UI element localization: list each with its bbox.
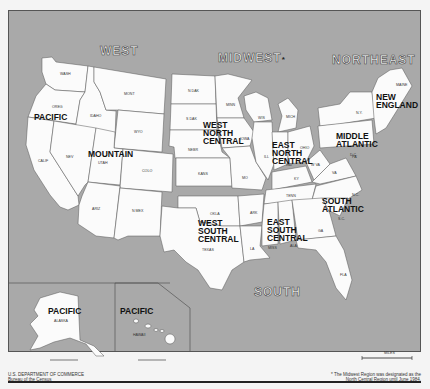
- svg-text:OHIO: OHIO: [300, 146, 309, 150]
- svg-text:OKLA: OKLA: [210, 212, 220, 216]
- svg-text:MICH: MICH: [286, 115, 296, 119]
- svg-text:WASH: WASH: [60, 72, 71, 76]
- region-label-midwest: MIDWEST*: [218, 51, 286, 65]
- svg-text:IND: IND: [286, 163, 293, 167]
- svg-text:CALIF: CALIF: [38, 159, 49, 163]
- svg-text:ILL: ILL: [264, 155, 269, 159]
- svg-text:MONT: MONT: [124, 92, 135, 96]
- svg-text:ALA: ALA: [290, 244, 297, 248]
- svg-text:IDAHO: IDAHO: [90, 114, 102, 118]
- svg-text:KY: KY: [294, 177, 299, 181]
- svg-text:FLA: FLA: [340, 273, 347, 277]
- hawaii-islands: [134, 319, 176, 344]
- region-label-west: WEST: [100, 44, 139, 58]
- svg-text:D.C.: D.C.: [350, 153, 357, 157]
- svg-text:NEV: NEV: [66, 155, 74, 159]
- hawaii-inset-border: [115, 283, 190, 352]
- svg-text:S.C.: S.C.: [338, 217, 345, 221]
- division-pacific: PACIFIC: [34, 112, 67, 122]
- svg-text:NEBR: NEBR: [188, 148, 198, 152]
- region-label-northeast: NORTHEAST: [332, 53, 416, 67]
- svg-text:TEXAS: TEXAS: [202, 248, 214, 252]
- svg-text:N.Y.: N.Y.: [356, 111, 363, 115]
- svg-text:ARK: ARK: [250, 211, 258, 215]
- svg-text:KANS: KANS: [198, 172, 208, 176]
- svg-text:VA: VA: [332, 171, 337, 175]
- svg-text:ALASKA: ALASKA: [54, 319, 69, 323]
- svg-text:HAWAII: HAWAII: [133, 333, 146, 337]
- svg-text:WIS: WIS: [258, 116, 265, 120]
- svg-text:WYO: WYO: [134, 130, 143, 134]
- svg-text:LA: LA: [250, 247, 255, 251]
- svg-text:MINN: MINN: [226, 103, 236, 107]
- svg-text:OREG: OREG: [52, 105, 63, 109]
- svg-text:TENN: TENN: [286, 194, 296, 198]
- division-mountain: MOUNTAIN: [88, 149, 133, 159]
- svg-text:UTAH: UTAH: [98, 161, 108, 165]
- svg-text:N DAK: N DAK: [188, 89, 200, 93]
- svg-text:MILES: MILES: [384, 351, 395, 355]
- svg-text:W VA: W VA: [311, 163, 321, 167]
- map-svg: WEST MIDWEST* NORTHEAST SOUTH PACIFIC MO…: [0, 0, 430, 389]
- svg-text:MO: MO: [242, 176, 248, 180]
- bottom-rule: [8, 381, 421, 383]
- scale-bar-main: MILES: [362, 351, 412, 360]
- svg-text:S DAK: S DAK: [186, 117, 197, 121]
- state-ark: [238, 194, 264, 226]
- svg-text:IOWA: IOWA: [240, 137, 250, 141]
- svg-text:N.C.: N.C.: [352, 193, 359, 197]
- division-pacific-hawaii: PACIFIC: [120, 306, 153, 316]
- division-south-atlantic: SOUTHATLANTIC: [322, 196, 364, 214]
- svg-text:MAINE: MAINE: [396, 83, 408, 87]
- svg-text:ARIZ: ARIZ: [92, 207, 101, 211]
- state-nmex: [114, 188, 162, 240]
- state-mont: [94, 67, 166, 114]
- state-fla: [296, 236, 352, 300]
- division-pacific-alaska: PACIFIC: [48, 306, 81, 316]
- state-alaska: [30, 292, 104, 356]
- svg-text:MISS: MISS: [268, 246, 277, 250]
- svg-text:COLO: COLO: [142, 169, 152, 173]
- svg-text:GA: GA: [318, 229, 324, 233]
- region-label-south: SOUTH: [254, 285, 301, 299]
- svg-text:N MEX: N MEX: [132, 209, 144, 213]
